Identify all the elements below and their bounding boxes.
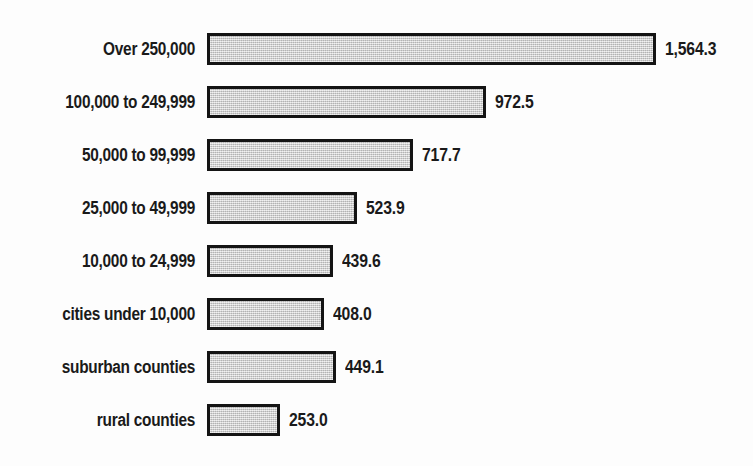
bar-container bbox=[207, 138, 413, 172]
bar bbox=[207, 298, 324, 330]
bar-container bbox=[207, 191, 357, 225]
bar-value-label: 523.9 bbox=[366, 191, 405, 225]
bar bbox=[207, 404, 280, 436]
bar-container bbox=[207, 85, 486, 119]
bar-row: cities under 10,000408.0 bbox=[0, 297, 753, 331]
bar bbox=[207, 86, 486, 118]
bar-value-label: 253.0 bbox=[289, 403, 328, 437]
category-label: cities under 10,000 bbox=[23, 297, 195, 331]
bar-container bbox=[207, 32, 656, 66]
bar-row: Over 250,0001,564.3 bbox=[0, 32, 753, 66]
category-label: rural counties bbox=[23, 403, 195, 437]
bar-value-label: 972.5 bbox=[495, 85, 534, 119]
bar-row: 50,000 to 99,999717.7 bbox=[0, 138, 753, 172]
bar-container bbox=[207, 350, 336, 384]
bar-row: 100,000 to 249,999972.5 bbox=[0, 85, 753, 119]
bar-row: 25,000 to 49,999523.9 bbox=[0, 191, 753, 225]
bar bbox=[207, 192, 357, 224]
category-label: Over 250,000 bbox=[23, 32, 195, 66]
bar-chart: Over 250,0001,564.3100,000 to 249,999972… bbox=[0, 0, 753, 466]
bar-value-label: 1,564.3 bbox=[665, 32, 716, 66]
category-label: 25,000 to 49,999 bbox=[23, 191, 195, 225]
category-label: suburban counties bbox=[23, 350, 195, 384]
bar-row: 10,000 to 24,999439.6 bbox=[0, 244, 753, 278]
bar-row: rural counties253.0 bbox=[0, 403, 753, 437]
bar-container bbox=[207, 403, 280, 437]
bar-value-label: 449.1 bbox=[345, 350, 384, 384]
category-label: 100,000 to 249,999 bbox=[23, 85, 195, 119]
bar-container bbox=[207, 244, 333, 278]
bar-row: suburban counties449.1 bbox=[0, 350, 753, 384]
bar bbox=[207, 351, 336, 383]
bar-value-label: 408.0 bbox=[333, 297, 372, 331]
bar bbox=[207, 33, 656, 65]
category-label: 50,000 to 99,999 bbox=[23, 138, 195, 172]
category-label: 10,000 to 24,999 bbox=[23, 244, 195, 278]
bar bbox=[207, 139, 413, 171]
bar-value-label: 717.7 bbox=[422, 138, 461, 172]
bar-container bbox=[207, 297, 324, 331]
bar-value-label: 439.6 bbox=[342, 244, 381, 278]
bar bbox=[207, 245, 333, 277]
